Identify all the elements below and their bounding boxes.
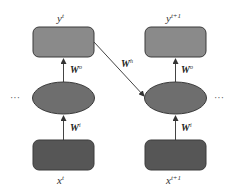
hidden-node-t-plus-1 xyxy=(145,82,207,114)
hidden-node-t xyxy=(33,82,95,114)
input-label-t-plus-1: xt+1 xyxy=(165,174,181,186)
rnn-diagram: yt Wo Wi xt yt+1 Wo Wi xyxy=(0,0,235,195)
input-weight-label-t-plus-1: Wi xyxy=(181,122,192,133)
input-label-t: xt xyxy=(56,174,65,186)
left-continuation-dots: ··· xyxy=(10,92,20,103)
output-weight-label-t-plus-1: Wo xyxy=(181,64,193,75)
output-box-t xyxy=(33,27,94,57)
right-continuation-dots: ··· xyxy=(214,92,224,103)
input-weight-label-t: Wi xyxy=(70,122,81,133)
column-t: yt Wo Wi xt xyxy=(33,12,95,186)
input-box-t xyxy=(33,140,94,170)
recurrent-arrow xyxy=(94,42,144,96)
output-box-t-plus-1 xyxy=(145,27,206,57)
column-t-plus-1: yt+1 Wo Wi xt+1 xyxy=(145,12,207,186)
output-label-t-plus-1: yt+1 xyxy=(165,12,181,24)
output-label-t: yt xyxy=(56,12,65,24)
output-weight-label-t: Wo xyxy=(70,64,82,75)
recurrent-weight-label: Wh xyxy=(121,58,133,69)
input-box-t-plus-1 xyxy=(145,140,206,170)
